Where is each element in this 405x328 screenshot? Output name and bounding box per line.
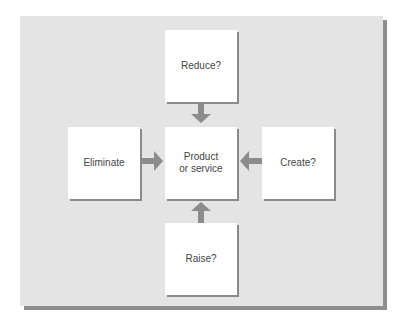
- create-box: Create?: [262, 127, 334, 199]
- product-or-service-label: Product or service: [179, 151, 222, 175]
- product-or-service-box: Product or service: [165, 127, 237, 199]
- raise-box: Raise?: [165, 223, 237, 295]
- reduce-box: Reduce?: [165, 30, 237, 102]
- eliminate-label: Eliminate: [83, 157, 124, 169]
- arrow-up-icon: [191, 202, 211, 223]
- raise-label: Raise?: [185, 253, 216, 265]
- eliminate-box: Eliminate: [68, 127, 140, 199]
- create-label: Create?: [280, 157, 316, 169]
- arrow-down-icon: [191, 104, 211, 123]
- arrow-right-icon: [142, 151, 163, 171]
- reduce-label: Reduce?: [181, 60, 221, 72]
- arrow-left-icon: [240, 151, 262, 171]
